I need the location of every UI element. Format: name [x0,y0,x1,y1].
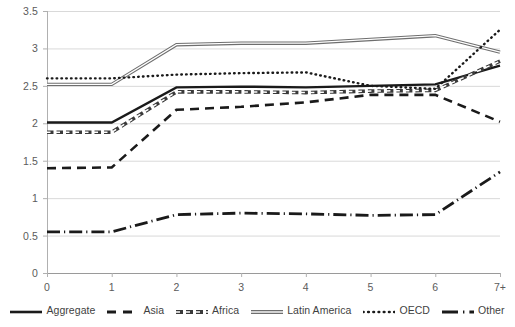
y-axis-tick-label: 0.5 [4,231,38,241]
chart-legend: AggregateAsiaAfricaLatin AmericaOECDOthe… [0,297,515,323]
x-axis-tick-label: 1 [92,282,132,292]
y-axis-tick-label: 2.5 [4,81,38,91]
plot-area: 00.511.522.533.5 01234567+ [0,0,515,290]
legend-key-icon [442,304,474,316]
legend-item-oecd[interactable]: OECD [363,304,430,316]
y-axis-tick-label: 3.5 [4,6,38,16]
x-axis-tick-label: 4 [286,282,326,292]
series-other [47,172,500,232]
x-axis-tick-label: 7+ [480,282,515,292]
series-layer [47,30,500,232]
y-axis-tick-label: 0 [4,268,38,278]
y-axis-tick-label: 1.5 [4,156,38,166]
gridlines [47,12,500,274]
x-axis-tick-label: 0 [27,282,67,292]
legend-label: Latin America [287,304,351,316]
legend-label: OECD [399,304,430,316]
series-oecd [47,30,500,89]
x-axis-tick-label: 2 [156,282,196,292]
x-axis-tick-label: 5 [351,282,391,292]
legend-item-other[interactable]: Other [442,304,505,316]
series-line [47,30,500,89]
y-axis-tick-label: 3 [4,43,38,53]
legend-key-icon [10,304,42,316]
legend-item-africa[interactable]: Africa [176,304,239,316]
legend-item-latin-america[interactable]: Latin America [251,304,351,316]
series-line [47,172,500,232]
legend-label: Other [478,304,505,316]
legend-key-icon [107,304,139,316]
y-axis-tick-label: 2 [4,118,38,128]
y-axis-tick-label: 1 [4,193,38,203]
axes [43,11,501,277]
legend-item-aggregate[interactable]: Aggregate [10,304,95,316]
legend-key-icon [363,304,395,316]
x-axis-tick-label: 3 [221,282,261,292]
legend-label: Aggregate [46,304,95,316]
chart-svg [0,0,515,290]
x-axis-tick-label: 6 [415,282,455,292]
line-chart: 00.511.522.533.5 01234567+ AggregateAsia… [0,0,515,327]
legend-item-asia[interactable]: Asia [107,304,164,316]
legend-key-icon [176,304,208,316]
legend-label: Asia [143,304,164,316]
legend-key-icon [251,304,283,316]
legend-label: Africa [212,304,239,316]
